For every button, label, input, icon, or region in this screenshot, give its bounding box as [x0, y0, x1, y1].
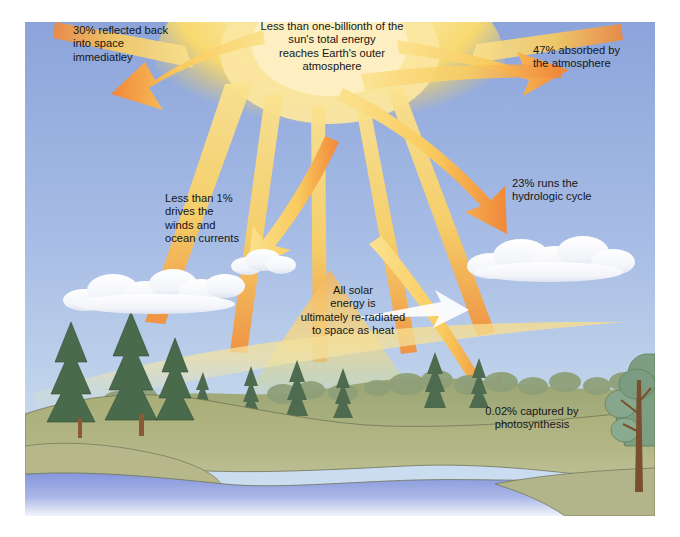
trunk: [139, 414, 144, 436]
label-hydrologic-23: 23% runs the hydrologic cycle: [512, 177, 632, 204]
label-sun-caption: Less than one-billionth of the sun's tot…: [237, 22, 427, 74]
solar-energy-diagram: Less than one-billionth of the sun's tot…: [25, 22, 655, 516]
label-reflected-30: 30% reflected back into space immediatle…: [73, 24, 213, 64]
label-absorbed-47: 47% absorbed by the atmosphere: [533, 44, 653, 71]
label-reradiated: All solar energy is ultimately re-radiat…: [278, 284, 428, 338]
diagram-canvas: [25, 22, 655, 516]
label-photosynthesis: 0.02% captured by photosynthesis: [458, 405, 606, 432]
label-winds-1: Less than 1% drives the winds and ocean …: [165, 192, 275, 246]
illustration-stage: Less than one-billionth of the sun's tot…: [0, 0, 680, 537]
trunk: [78, 418, 82, 438]
